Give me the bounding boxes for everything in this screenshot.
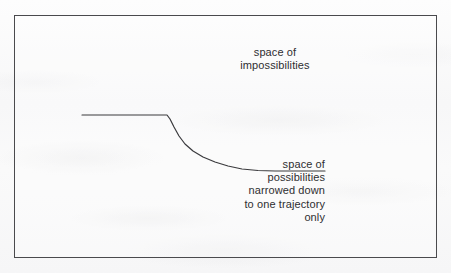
figure-canvas: space of impossibilities space of possib… bbox=[0, 0, 451, 273]
label-space-of-impossibilities: space of impossibilities bbox=[215, 46, 335, 72]
label-space-of-possibilities: space of possibilities narrowed down to … bbox=[195, 158, 325, 224]
